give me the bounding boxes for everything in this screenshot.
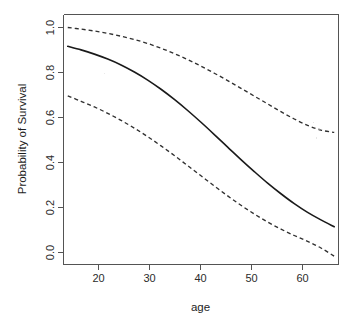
y-tick-label-0: 0.0 bbox=[44, 245, 56, 260]
x-axis-title: age bbox=[191, 301, 210, 313]
y-tick-label-5: 1.0 bbox=[44, 20, 56, 35]
y-axis-title: Probability of Survival bbox=[16, 84, 28, 195]
y-tick-label-2: 0.4 bbox=[44, 155, 56, 170]
y-tick-label-4: 0.8 bbox=[44, 65, 56, 80]
y-tick-label-1: 0.2 bbox=[44, 200, 56, 215]
x-tick-label-3: 50 bbox=[245, 272, 257, 284]
y-tick-label-3: 0.6 bbox=[44, 110, 56, 125]
x-tick-label-0: 20 bbox=[92, 272, 104, 284]
x-tick-label-1: 30 bbox=[143, 272, 155, 284]
x-tick-label-2: 40 bbox=[194, 272, 206, 284]
x-tick-label-4: 60 bbox=[296, 272, 308, 284]
chart-figure: 0.0 0.2 0.4 0.6 0.8 1.0 20 30 40 50 60 a… bbox=[0, 0, 354, 325]
survival-probability-plot: 0.0 0.2 0.4 0.6 0.8 1.0 20 30 40 50 60 a… bbox=[0, 0, 354, 325]
